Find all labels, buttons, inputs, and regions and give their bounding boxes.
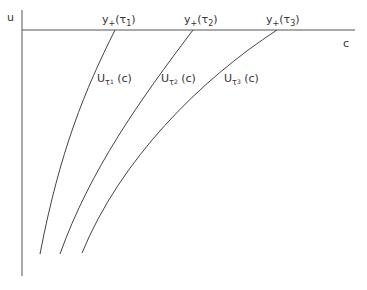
curve-label-tau1: Uτ1 (c)	[97, 73, 132, 84]
top-label-tau2: y+(τ2)	[184, 14, 218, 25]
label-U: U	[161, 72, 169, 85]
paren-close: )	[295, 13, 299, 26]
label-arg: (c)	[181, 72, 196, 85]
label-y: y	[266, 13, 273, 26]
label-y: y	[184, 13, 191, 26]
label-arg: (c)	[244, 72, 259, 85]
label-U: U	[97, 72, 105, 85]
paren-close: )	[131, 13, 135, 26]
curve-label-tau3: Uτ3 (c)	[224, 73, 259, 84]
horizontal-axis-label: c	[343, 38, 349, 49]
tau-subscript: 2	[174, 78, 178, 85]
curve-tau3	[82, 30, 277, 253]
label-plus-sub: +	[109, 19, 116, 28]
label-U: U	[224, 72, 232, 85]
label-plus-sub: +	[191, 19, 198, 28]
curve-tau2	[60, 30, 193, 254]
tau-subscript: 3	[290, 19, 295, 28]
label-plus-sub: +	[273, 19, 280, 28]
tau-subscript: 1	[126, 19, 131, 28]
vertical-axis-label: u	[7, 12, 14, 23]
tau-subscript: 1	[110, 78, 114, 85]
label-arg: (c)	[117, 72, 132, 85]
diagram-canvas	[0, 0, 367, 290]
curve-label-tau2: Uτ2 (c)	[161, 73, 196, 84]
top-label-tau1: y+(τ1)	[102, 14, 136, 25]
top-label-tau3: y+(τ3)	[266, 14, 300, 25]
paren-close: )	[213, 13, 217, 26]
tau-subscript: 3	[237, 78, 241, 85]
tau-subscript: 2	[208, 19, 213, 28]
label-y: y	[102, 13, 109, 26]
curve-tau1	[40, 30, 115, 254]
